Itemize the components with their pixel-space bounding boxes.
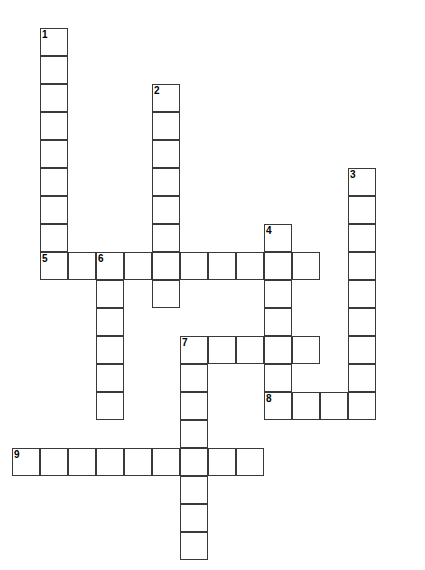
crossword-cell[interactable] <box>152 196 180 224</box>
cell-number-5: 5 <box>42 253 47 264</box>
crossword-cell[interactable] <box>292 252 320 280</box>
crossword-cell[interactable]: 6 <box>96 252 124 280</box>
crossword-cell[interactable] <box>264 280 292 308</box>
cell-number-1: 1 <box>42 29 47 40</box>
crossword-cell[interactable] <box>40 112 68 140</box>
crossword-cell[interactable] <box>152 448 180 476</box>
crossword-cell[interactable] <box>292 336 320 364</box>
crossword-cell[interactable]: 8 <box>264 392 292 420</box>
crossword-cell[interactable] <box>68 448 96 476</box>
crossword-cell[interactable] <box>96 392 124 420</box>
crossword-cell[interactable] <box>40 140 68 168</box>
crossword-cell[interactable] <box>124 252 152 280</box>
crossword-cell[interactable] <box>96 448 124 476</box>
crossword-cell[interactable]: 2 <box>152 84 180 112</box>
crossword-cell[interactable] <box>40 168 68 196</box>
crossword-cell[interactable] <box>348 224 376 252</box>
crossword-cell[interactable] <box>348 308 376 336</box>
cell-number-6: 6 <box>98 253 103 264</box>
crossword-cell[interactable] <box>180 420 208 448</box>
crossword-cell[interactable] <box>152 140 180 168</box>
crossword-cell[interactable] <box>152 280 180 308</box>
crossword-cell[interactable]: 5 <box>40 252 68 280</box>
crossword-cell[interactable] <box>180 448 208 476</box>
cell-number-8: 8 <box>266 393 271 404</box>
cell-number-4: 4 <box>266 225 271 236</box>
cell-number-3: 3 <box>350 169 355 180</box>
crossword-cell[interactable]: 1 <box>40 28 68 56</box>
crossword-cell[interactable] <box>348 364 376 392</box>
crossword-cell[interactable] <box>264 308 292 336</box>
crossword-cell[interactable]: 3 <box>348 168 376 196</box>
crossword-cell[interactable]: 7 <box>180 336 208 364</box>
crossword-cell[interactable] <box>264 336 292 364</box>
crossword-cell[interactable] <box>152 112 180 140</box>
crossword-cell[interactable] <box>180 504 208 532</box>
crossword-cell[interactable] <box>236 336 264 364</box>
crossword-cell[interactable] <box>124 448 152 476</box>
crossword-cell[interactable] <box>292 392 320 420</box>
crossword-cell[interactable] <box>208 252 236 280</box>
crossword-cell[interactable] <box>152 168 180 196</box>
crossword-cell[interactable] <box>40 84 68 112</box>
crossword-cell[interactable] <box>180 364 208 392</box>
crossword-cell[interactable] <box>152 252 180 280</box>
crossword-cell[interactable] <box>40 196 68 224</box>
crossword-cell[interactable] <box>208 336 236 364</box>
crossword-cell[interactable] <box>40 224 68 252</box>
crossword-cell[interactable] <box>96 280 124 308</box>
crossword-cell[interactable] <box>180 252 208 280</box>
crossword-cell[interactable]: 9 <box>12 448 40 476</box>
crossword-cell[interactable] <box>348 196 376 224</box>
crossword-cell[interactable] <box>208 448 236 476</box>
crossword-cell[interactable] <box>40 56 68 84</box>
crossword-cell[interactable] <box>96 336 124 364</box>
crossword-cell[interactable] <box>236 252 264 280</box>
crossword-cell[interactable] <box>348 392 376 420</box>
crossword-cell[interactable] <box>180 476 208 504</box>
crossword-cell[interactable] <box>180 532 208 560</box>
crossword-cell[interactable] <box>180 392 208 420</box>
crossword-grid[interactable]: 123456789 <box>0 0 425 570</box>
crossword-cell[interactable] <box>348 280 376 308</box>
crossword-cell[interactable] <box>348 336 376 364</box>
crossword-cell[interactable] <box>40 448 68 476</box>
crossword-cell[interactable] <box>348 252 376 280</box>
crossword-cell[interactable] <box>96 308 124 336</box>
crossword-cell[interactable] <box>152 224 180 252</box>
cell-number-9: 9 <box>14 449 19 460</box>
crossword-cell[interactable]: 4 <box>264 224 292 252</box>
crossword-cell[interactable] <box>320 392 348 420</box>
crossword-cell[interactable] <box>264 364 292 392</box>
crossword-cell[interactable] <box>68 252 96 280</box>
cell-number-2: 2 <box>154 85 159 96</box>
crossword-cell[interactable] <box>264 252 292 280</box>
cell-number-7: 7 <box>182 337 187 348</box>
crossword-cell[interactable] <box>236 448 264 476</box>
crossword-cell[interactable] <box>96 364 124 392</box>
